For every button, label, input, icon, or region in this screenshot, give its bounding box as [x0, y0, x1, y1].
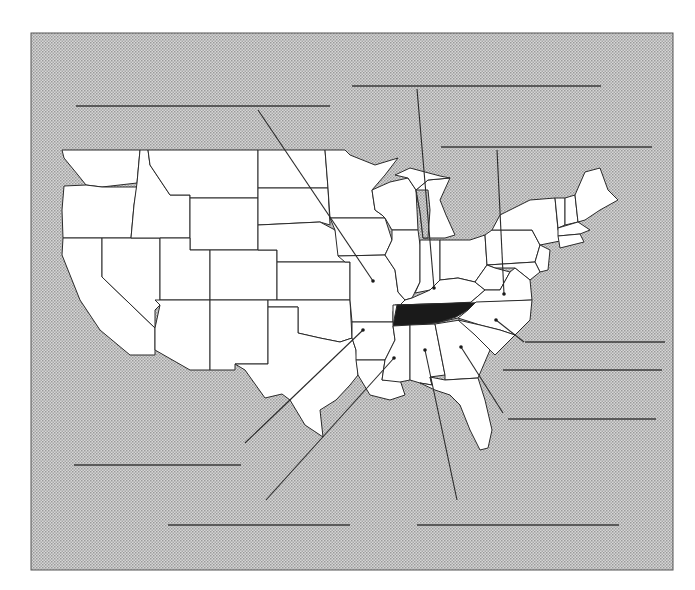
state-oregon	[62, 185, 137, 238]
pointer-dot-virginia	[502, 292, 506, 296]
pointer-dot-north-carolina	[494, 318, 498, 322]
state-iowa	[330, 218, 392, 256]
pointer-dot-georgia	[459, 345, 463, 349]
us-map	[0, 0, 695, 590]
state-pennsylvania	[485, 230, 540, 265]
state-kansas	[277, 262, 350, 300]
pointer-dot-kentucky	[432, 286, 436, 290]
state-colorado	[210, 250, 277, 300]
pointer-dot-mississippi	[392, 356, 396, 360]
state-south-dakota	[258, 188, 330, 225]
pointer-dot-arkansas	[361, 328, 365, 332]
state-wyoming	[190, 198, 258, 250]
pointer-dot-alabama	[423, 348, 427, 352]
state-north-dakota	[258, 150, 328, 188]
state-new-mexico	[210, 300, 268, 370]
pointer-dot-missouri	[371, 279, 375, 283]
